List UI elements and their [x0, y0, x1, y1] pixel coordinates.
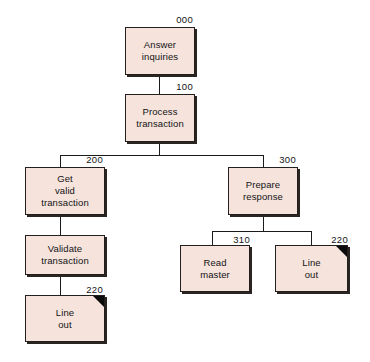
- node-prepare-response[interactable]: Prepare response: [228, 167, 298, 215]
- structure-chart: 000 100 200 300 210 220 310 220 Answer i…: [0, 0, 370, 362]
- node-label-line: Process: [142, 106, 177, 118]
- terminal-marker-icon: [336, 246, 347, 257]
- module-number-220-left: 220: [50, 284, 103, 295]
- node-label-line: Prepare: [246, 179, 281, 191]
- module-number-200: 200: [50, 154, 103, 165]
- connector-process-to-bus: [159, 142, 160, 155]
- node-label-line: out: [58, 319, 72, 331]
- node-read-master[interactable]: Read master: [180, 245, 250, 292]
- node-label-line: out: [305, 269, 319, 281]
- node-get-valid-transaction[interactable]: Get valid transaction: [25, 167, 105, 215]
- node-process-transaction[interactable]: Process transaction: [125, 94, 195, 142]
- node-label-line: Line: [56, 307, 74, 319]
- node-label-line: Validate: [48, 243, 82, 255]
- node-answer-inquiries[interactable]: Answer inquiries: [125, 27, 195, 75]
- node-line-out-right[interactable]: Line out: [275, 245, 348, 292]
- node-label-line: transaction: [41, 197, 89, 209]
- node-label-line: transaction: [136, 118, 184, 130]
- connector-get-valid-to-validate: [60, 215, 61, 235]
- module-number-220-right: 220: [295, 234, 348, 245]
- module-number-000: 000: [140, 14, 193, 25]
- node-label-line: transaction: [41, 255, 89, 267]
- terminal-marker-icon: [93, 296, 104, 307]
- connector-bus-level3: [212, 231, 312, 232]
- module-number-310: 310: [197, 234, 250, 245]
- node-label-line: response: [243, 191, 283, 203]
- node-label-line: master: [200, 269, 230, 281]
- node-line-out-left[interactable]: Line out: [25, 295, 105, 342]
- connector-prepare-to-bus: [263, 215, 264, 231]
- node-label-line: valid: [55, 185, 75, 197]
- module-number-300: 300: [243, 154, 296, 165]
- module-number-100: 100: [140, 81, 193, 92]
- node-label-line: Get: [57, 173, 73, 185]
- node-label-line: Line: [302, 257, 320, 269]
- node-label-line: Answer: [144, 39, 176, 51]
- node-label-line: Read: [203, 257, 226, 269]
- node-label-line: inquiries: [142, 51, 178, 63]
- node-validate-transaction[interactable]: Validate transaction: [25, 235, 105, 275]
